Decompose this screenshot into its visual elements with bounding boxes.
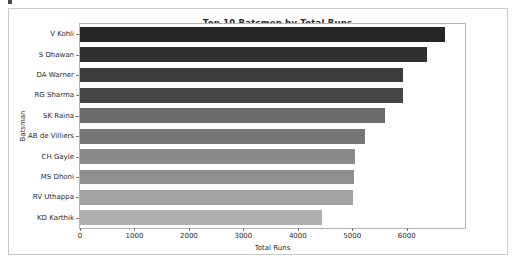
x-tick-label: 0 bbox=[78, 232, 82, 240]
y-tick-label: DA Warner bbox=[37, 71, 74, 79]
y-tick-mark bbox=[76, 136, 79, 137]
y-tick-label: RG Sharma bbox=[34, 91, 74, 99]
bar-fill bbox=[80, 47, 427, 62]
bar-fill bbox=[80, 129, 365, 144]
y-tick-mark bbox=[76, 75, 79, 76]
x-tick-label: 6000 bbox=[398, 232, 416, 240]
y-tick-mark bbox=[76, 55, 79, 56]
y-tick-mark bbox=[76, 218, 79, 219]
bar-fill bbox=[80, 190, 353, 205]
bar-s-dhawan bbox=[80, 47, 427, 62]
bar-ms-dhoni bbox=[80, 170, 354, 185]
x-tick-mark bbox=[352, 228, 353, 231]
x-tick-mark bbox=[243, 228, 244, 231]
x-tick-mark bbox=[189, 228, 190, 231]
x-tick-label: 2000 bbox=[180, 232, 198, 240]
plot-area: V KohliS DhawanDA WarnerRG SharmaSK Rain… bbox=[79, 23, 466, 229]
bar-fill bbox=[80, 149, 355, 164]
y-tick-mark bbox=[76, 34, 79, 35]
y-tick-label: RV Uthappa bbox=[33, 193, 74, 201]
y-tick-label: S Dhawan bbox=[39, 51, 74, 59]
bar-fill bbox=[80, 210, 322, 225]
bar-ch-gayle bbox=[80, 149, 355, 164]
x-tick-label: 1000 bbox=[126, 232, 144, 240]
bar-fill bbox=[80, 27, 445, 42]
bar-ab-de-villiers bbox=[80, 129, 365, 144]
y-tick-mark bbox=[76, 197, 79, 198]
figure-frame: Top 10 Batsmen by Total Runs Batsman V K… bbox=[8, 8, 508, 255]
y-axis-title: Batsman bbox=[19, 110, 27, 141]
y-tick-mark bbox=[76, 95, 79, 96]
x-tick-label: 5000 bbox=[343, 232, 361, 240]
x-tick-label: 4000 bbox=[289, 232, 307, 240]
bar-rv-uthappa bbox=[80, 190, 353, 205]
y-tick-label: KD Karthik bbox=[37, 214, 74, 222]
y-tick-mark bbox=[76, 157, 79, 158]
y-tick-label: MS Dhoni bbox=[41, 173, 74, 181]
bar-da-warner bbox=[80, 68, 403, 83]
y-tick-mark bbox=[76, 177, 79, 178]
y-tick-mark bbox=[76, 116, 79, 117]
bar-fill bbox=[80, 88, 403, 103]
x-tick-mark bbox=[298, 228, 299, 231]
y-tick-label: AB de Villiers bbox=[28, 132, 74, 140]
x-tick-mark bbox=[134, 228, 135, 231]
bar-fill bbox=[80, 108, 385, 123]
x-tick-mark bbox=[407, 228, 408, 231]
x-tick-mark bbox=[80, 228, 81, 231]
x-axis-title: Total Runs bbox=[79, 244, 466, 252]
y-tick-label: CH Gayle bbox=[42, 153, 74, 161]
bar-v-kohli bbox=[80, 27, 445, 42]
bar-kd-karthik bbox=[80, 210, 322, 225]
bar-sk-raina bbox=[80, 108, 385, 123]
y-tick-label: SK Raina bbox=[43, 112, 74, 120]
bar-fill bbox=[80, 170, 354, 185]
bar-fill bbox=[80, 68, 403, 83]
screenshot-artifact-mark bbox=[8, 0, 12, 4]
x-tick-label: 3000 bbox=[234, 232, 252, 240]
bar-rg-sharma bbox=[80, 88, 403, 103]
y-tick-label: V Kohli bbox=[50, 30, 74, 38]
